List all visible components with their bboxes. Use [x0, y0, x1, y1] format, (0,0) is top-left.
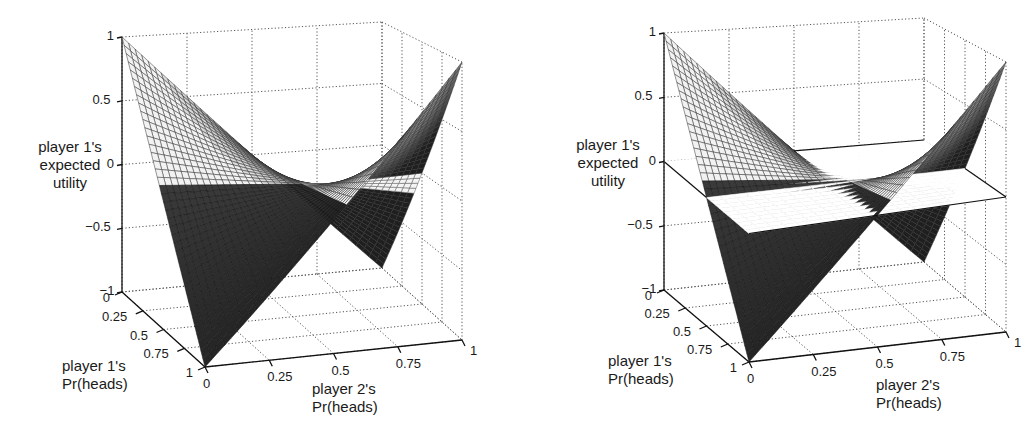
p1-tick-label: 0.75: [687, 343, 712, 357]
z-axis-label-line: player 1's: [22, 138, 118, 156]
axis-line: [205, 367, 208, 373]
axis-line: [1006, 332, 1009, 338]
axis-line: [700, 326, 707, 329]
surface-mesh: [664, 33, 1006, 362]
z-axis-label-line: player 1's: [560, 136, 656, 154]
axis-line: [398, 347, 401, 353]
axis-line: [117, 101, 122, 102]
p1-tick-label: 0.25: [644, 307, 669, 321]
p2-tick-label: 0: [203, 377, 210, 391]
p1-tick-label: 0: [645, 289, 652, 303]
axis-line: [659, 33, 664, 34]
surface-mesh: [122, 37, 462, 367]
axis-line: [157, 330, 164, 333]
p1-tick-label: 0: [103, 291, 110, 305]
grid-line: [859, 269, 942, 340]
p2-axis-label: player 2's Pr(heads): [312, 380, 392, 416]
axis-line: [177, 348, 184, 351]
p1-tick-label: 0.5: [130, 329, 148, 343]
p1-axis-label-line: Pr(heads): [62, 375, 142, 393]
z-tick-label: 1: [107, 29, 114, 43]
p2-tick-label: 0.5: [876, 357, 894, 371]
z-tick-label: 0.5: [92, 93, 110, 107]
surface-plot-left: player 1's expected utility player 1's P…: [0, 0, 517, 433]
axis-line: [721, 344, 728, 347]
axis-line: [659, 97, 664, 98]
axis-line: [136, 311, 143, 314]
axis-line: [742, 362, 749, 365]
p1-axis-label-line: player 1's: [62, 357, 142, 375]
p1-axis-label-line: Pr(heads): [608, 370, 688, 388]
p1-tick-label: 0.75: [143, 347, 168, 361]
p1-tick-label: 1: [730, 361, 737, 375]
z-axis-label-line: expected: [560, 154, 656, 172]
p1-axis-label: player 1's Pr(heads): [62, 357, 142, 393]
z-axis-label: player 1's expected utility: [560, 136, 656, 190]
z-tick-label: 0.5: [634, 89, 652, 103]
p2-tick-label: 1: [1014, 336, 1021, 350]
p2-tick-label: 0.25: [811, 365, 836, 379]
axis-line: [659, 226, 664, 227]
axis-line: [942, 340, 945, 346]
surface-plot-right-with-plane: player 1's expected utility player 1's P…: [517, 0, 1034, 433]
p2-axis-label-line: player 2's: [876, 376, 956, 394]
p1-tick-label: 1: [186, 366, 193, 380]
p1-axis-label: player 1's Pr(heads): [608, 352, 688, 388]
p1-tick-label: 0.25: [102, 310, 127, 324]
z-axis-label-line: expected: [22, 156, 118, 174]
p1-axis-label-line: player 1's: [608, 352, 688, 370]
axis-line: [334, 354, 337, 360]
axis-line: [878, 347, 881, 353]
p2-tick-label: 0.75: [396, 357, 421, 371]
axis-line: [462, 340, 465, 346]
p2-tick-label: 0.75: [940, 350, 965, 364]
z-axis-label-line: utility: [22, 174, 118, 192]
p2-axis-label: player 2's Pr(heads): [876, 376, 956, 412]
z-tick-label: 0: [107, 157, 114, 171]
p2-tick-label: 0.5: [332, 364, 350, 378]
axis-line: [813, 355, 816, 361]
surface-3d-canvas: [517, 0, 1034, 433]
axis-line: [749, 362, 752, 368]
z-tick-label: 0: [649, 154, 656, 168]
z-tick-label: −0.5: [85, 220, 111, 234]
z-tick-label: 1: [649, 25, 656, 39]
z-tick-label: −0.5: [627, 218, 653, 232]
p2-tick-label: 0: [747, 372, 754, 386]
axis-line: [117, 37, 122, 38]
p2-tick-label: 1: [470, 344, 477, 358]
p2-axis-label-line: Pr(heads): [876, 394, 956, 412]
axis-line: [659, 162, 664, 163]
axis-line: [678, 308, 685, 311]
p2-axis-label-line: Pr(heads): [312, 398, 392, 416]
z-axis-label-line: utility: [560, 172, 656, 190]
p2-tick-label: 0.25: [267, 370, 292, 384]
z-axis-label: player 1's expected utility: [22, 138, 118, 192]
axis-line: [117, 228, 122, 229]
axis-line: [269, 360, 272, 366]
axis-line: [198, 367, 205, 370]
p1-tick-label: 0.5: [673, 325, 691, 339]
p2-axis-label-line: player 2's: [312, 380, 392, 398]
